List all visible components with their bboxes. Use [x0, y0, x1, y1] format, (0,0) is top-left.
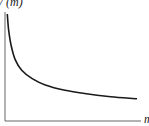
data-curve	[7, 14, 137, 99]
chart-canvas	[0, 0, 149, 126]
